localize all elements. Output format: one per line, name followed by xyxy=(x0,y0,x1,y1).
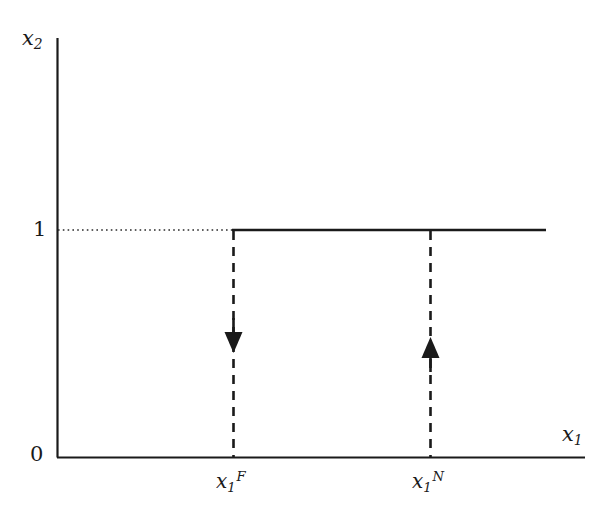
y-axis-label-subscript: 2 xyxy=(34,36,43,52)
x-tick-label-xn-subscript: 1 xyxy=(423,480,431,495)
x-tick-label-xn-superscript: N xyxy=(432,469,444,484)
x-tick-label-xf-subscript: 1 xyxy=(227,480,235,495)
arrow-down-icon xyxy=(225,332,243,353)
y-axis-label: x2 xyxy=(22,28,43,52)
diagram-figure: x2 x1 1 0 x1F x1N xyxy=(0,0,614,519)
x-axis-label: x1 xyxy=(562,424,583,448)
x-tick-label-xf: x1F xyxy=(216,470,246,494)
x-tick-label-xf-superscript: F xyxy=(236,469,245,484)
plot-canvas xyxy=(0,0,614,519)
arrow-up-icon xyxy=(422,337,440,358)
x-tick-label-xf-base: x xyxy=(216,469,227,493)
y-tick-label-zero: 0 xyxy=(30,444,43,465)
y-tick-label-one: 1 xyxy=(33,219,46,240)
y-axis-label-base: x xyxy=(22,26,34,50)
x-axis-label-base: x xyxy=(562,422,574,446)
x-tick-label-xn-base: x xyxy=(412,469,423,493)
x-axis-label-subscript: 1 xyxy=(574,432,583,448)
x-tick-label-xn: x1N xyxy=(412,470,444,494)
